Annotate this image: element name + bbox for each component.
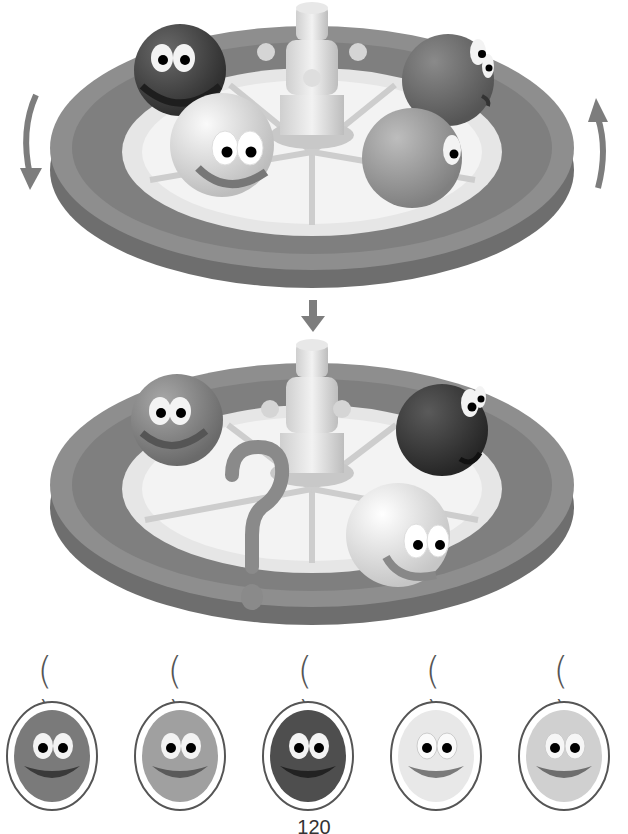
choice-face-5[interactable] — [516, 700, 612, 812]
choice-face-3[interactable] — [260, 700, 356, 812]
bottom-turntable — [0, 335, 628, 635]
ball-front-right — [346, 483, 450, 587]
rotate-left-arrow-icon — [26, 95, 36, 175]
ball-front-left — [170, 93, 274, 197]
page-number: 120 — [0, 816, 628, 834]
choice-face-1[interactable] — [4, 700, 100, 812]
choice-face-2[interactable] — [132, 700, 228, 812]
rotate-right-arrow-icon — [598, 118, 603, 188]
ball-front-right — [362, 108, 462, 208]
down-arrow-icon — [298, 300, 328, 334]
ball-back-left — [131, 374, 223, 466]
ball-back-right — [396, 384, 488, 476]
top-turntable — [0, 0, 628, 295]
choice-face-4[interactable] — [388, 700, 484, 812]
answer-blanks: ( ) ( ) ( ) ( ) ( ) — [0, 648, 628, 692]
